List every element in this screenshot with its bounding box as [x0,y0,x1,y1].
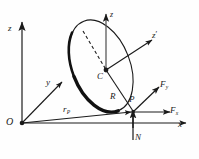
axis-z-label: z [8,24,12,33]
axis-x-label: x [178,120,182,129]
radius-label: R [110,92,116,101]
position-vector-sub: P [67,109,70,115]
force-y-label: Fy [160,80,168,89]
position-vector-base: r [63,104,67,114]
contact-point-label: P [129,95,135,104]
position-vector-line [22,112,131,123]
tilt-dashed-line [83,31,105,68]
origin-label: O [6,117,13,127]
figure-canvas: z y x O z z′ C R P rP Fx Fy N [0,0,199,159]
force-x-label: Fx [170,106,178,115]
axis-y-global [22,82,62,123]
axis-z-prime-label: z′ [152,31,157,40]
force-y-sub: y [166,84,168,90]
center-point-dot [104,68,109,73]
axis-z-prime [106,40,152,70]
position-vector-label: rP [63,105,70,114]
force-y-base: F [160,79,166,89]
center-label: C [97,72,103,81]
axis-y-label: y [46,78,50,87]
force-y-vector [133,87,159,112]
z-prime-base: z [152,30,156,40]
force-x-base: F [170,105,176,115]
normal-force-label: N [135,133,141,142]
force-x-sub: x [176,110,178,116]
disk-body [57,11,146,121]
disk-axis-z-label: z [110,11,113,19]
disk-thick-rim-upper [59,33,87,77]
z-prime-mark: ′ [156,30,158,39]
